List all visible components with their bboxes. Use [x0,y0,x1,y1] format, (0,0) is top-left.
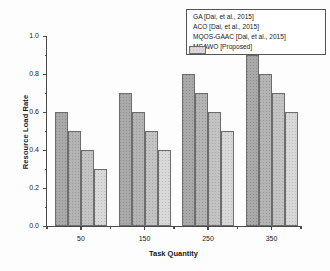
y-tick-mark [43,150,47,151]
bar [182,74,195,226]
bar [246,55,259,226]
y-axis-label: Resource Load Rate [21,94,30,168]
x-tick-mark-minor [237,226,238,229]
y-tick-label: 1.0 [29,32,39,39]
chart-legend: GA [Dai, et al., 2015]ACO [Dai, et al., … [186,9,326,55]
y-tick-mark [43,112,47,113]
legend-label: ACO [Dai, et al., 2015] [193,22,259,32]
bar [68,131,81,226]
x-tick-mark-minor [46,226,47,229]
y-tick-label: 0.6 [29,108,39,115]
x-tick-mark [207,226,208,230]
bar [259,74,272,226]
x-tick-mark [80,226,81,230]
bar [158,150,171,226]
x-tick-mark-minor [173,226,174,229]
bar [145,131,158,226]
legend-label: GA [Dai, et al., 2015] [193,12,254,22]
bar [81,150,94,226]
x-tick-mark-minor [110,226,111,229]
y-tick-mark [43,36,47,37]
x-tick-label: 250 [202,235,214,242]
y-tick-mark-minor [45,169,48,170]
bar [285,112,298,226]
bar [195,93,208,226]
y-tick-label: 0.2 [29,184,39,191]
x-tick-mark [271,226,272,230]
x-axis-label: Task Quantity [149,249,198,258]
legend-label: MQOS-GAAC [Dai, et al., 2015] [193,32,286,42]
legend-item: GA [Dai, et al., 2015] [189,12,323,22]
legend-item: MSAWO [Proposed] [189,42,323,52]
plot-area: Resource Load Rate 0.00.20.40.60.81.0 50… [46,37,300,227]
x-tick-label: 50 [77,235,85,242]
legend-item: MQOS-GAAC [Dai, et al., 2015] [189,32,323,42]
bar [119,93,132,226]
x-tick-label: 350 [266,235,278,242]
bar [55,112,68,226]
y-tick-mark-minor [45,207,48,208]
x-tick-mark [144,226,145,230]
y-tick-mark-minor [45,93,48,94]
y-tick-mark-minor [45,131,48,132]
x-tick-mark-minor [300,226,301,229]
bar [272,93,285,226]
y-tick-mark-minor [45,55,48,56]
bar [94,169,107,226]
legend-swatch-icon [189,46,206,54]
y-tick-label: 0.0 [29,222,39,229]
y-tick-label: 0.8 [29,70,39,77]
bar [132,112,145,226]
y-tick-mark [43,188,47,189]
x-tick-label: 150 [139,235,151,242]
bar [221,131,234,226]
y-tick-label: 0.4 [29,146,39,153]
y-tick-mark [43,74,47,75]
figure-canvas: Resource Load Rate 0.00.20.40.60.81.0 50… [0,0,330,271]
bar [208,112,221,226]
legend-item: ACO [Dai, et al., 2015] [189,22,323,32]
